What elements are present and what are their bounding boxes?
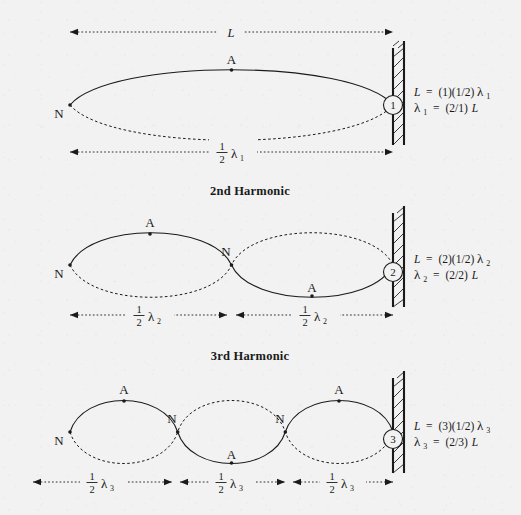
harmonic-1-formulas: L = (1)(1/2) λ 1 λ 1 = (2/1) L xyxy=(413,84,490,117)
lambda-subscript: 3 xyxy=(350,484,354,493)
harmonic-2-diagram: 2nd Harmonic N N A A xyxy=(0,175,521,340)
dimension-half-lambda: 1 2 λ 3 xyxy=(180,469,285,495)
fraction-numerator: 1 xyxy=(329,471,334,482)
fraction-numerator: 1 xyxy=(302,304,307,315)
standing-wave-harmonics-figure: L N A 1 xyxy=(0,0,521,515)
antinode-label-A: A xyxy=(119,382,129,397)
node-label-N: N xyxy=(54,106,64,121)
fraction-denominator: 2 xyxy=(218,484,223,495)
harmonic-1-diagram: L N A 1 xyxy=(0,0,521,175)
fraction-denominator: 2 xyxy=(302,317,307,328)
dimension-L-label: L xyxy=(227,26,235,40)
antinode-label-A: A xyxy=(307,280,317,295)
fraction-numerator: 1 xyxy=(89,471,94,482)
node-point xyxy=(68,263,72,267)
node-point xyxy=(230,263,234,267)
dimension-half-lambda: 1 2 λ 2 xyxy=(70,302,227,328)
wall xyxy=(393,41,404,145)
harmonic-3-heading: 3rd Harmonic xyxy=(211,349,290,363)
antinode-label-A: A xyxy=(334,382,344,397)
fraction-numerator: 1 xyxy=(219,141,224,152)
dimension-half-lambda: 1 2 λ 3 xyxy=(33,469,172,495)
fraction-denominator: 2 xyxy=(219,154,224,165)
lambda-subscript: 1 xyxy=(240,154,244,163)
harmonic-number: 2 xyxy=(390,266,396,278)
fraction-denominator: 2 xyxy=(136,317,141,328)
node-point xyxy=(68,430,72,434)
fraction-numerator: 1 xyxy=(218,471,223,482)
fraction-denominator: 2 xyxy=(89,484,94,495)
lambda-subscript: 3 xyxy=(110,484,114,493)
harmonic-number-badge: 2 xyxy=(384,263,403,282)
wave-solid xyxy=(70,70,393,105)
lambda-subscript: 3 xyxy=(239,484,243,493)
harmonic-2-formulas: L = (2)(1/2) λ 2 λ 2 = (2/2) L xyxy=(413,251,490,284)
harmonic-number: 1 xyxy=(390,99,396,111)
node-label-N: N xyxy=(275,411,285,426)
wave-dashed xyxy=(70,105,393,140)
node-label-N: N xyxy=(221,244,231,259)
harmonic-3-formulas: L = (3)(1/2) λ 3 λ 3 = (2/3) L xyxy=(413,418,490,451)
wall xyxy=(393,371,404,473)
harmonic-2-heading: 2nd Harmonic xyxy=(210,184,290,198)
antinode-point xyxy=(230,68,234,72)
harmonic-number-badge: 3 xyxy=(384,430,403,449)
formula-length: L = (3)(1/2) λ 3 xyxy=(413,418,490,435)
antinode-point xyxy=(337,399,341,403)
formula-wavelength: λ 1 = (2/1) L xyxy=(414,100,478,117)
antinode-point xyxy=(148,232,152,236)
fraction-denominator: 2 xyxy=(329,484,334,495)
dimension-half-lambda: 1 2 λ 3 xyxy=(293,469,393,495)
lambda-glyph: λ xyxy=(231,146,238,161)
dimension-L-arrow: L xyxy=(70,22,393,42)
antinode-label-A: A xyxy=(227,447,237,462)
dimension-half-lambda: 1 2 λ 1 xyxy=(70,139,393,165)
wall xyxy=(393,206,404,307)
lambda-subscript: 2 xyxy=(157,317,161,326)
formula-wavelength: λ 3 = (2/3) L xyxy=(414,434,478,451)
lambda-glyph: λ xyxy=(341,476,348,491)
antinode-label-A: A xyxy=(227,52,237,67)
lambda-glyph: λ xyxy=(230,476,237,491)
node-point xyxy=(176,430,180,434)
formula-length: L = (1)(1/2) λ 1 xyxy=(413,84,490,101)
dimension-half-lambda: 1 2 λ 2 xyxy=(236,302,393,328)
node-label-N: N xyxy=(54,266,64,281)
node-point xyxy=(68,103,72,107)
lambda-glyph: λ xyxy=(314,309,321,324)
lambda-subscript: 2 xyxy=(323,317,327,326)
antinode-label-A: A xyxy=(145,215,155,230)
harmonic-3-diagram: 3rd Harmonic N N N A A xyxy=(0,340,521,515)
node-label-N: N xyxy=(54,433,64,448)
node-label-N: N xyxy=(167,411,177,426)
harmonic-number-badge: 1 xyxy=(384,96,403,115)
lambda-glyph: λ xyxy=(101,476,108,491)
lambda-glyph: λ xyxy=(148,309,155,324)
node-point xyxy=(284,430,288,434)
formula-wavelength: λ 2 = (2/2) L xyxy=(414,267,478,284)
harmonic-number: 3 xyxy=(390,433,396,445)
fraction-numerator: 1 xyxy=(136,304,141,315)
formula-length: L = (2)(1/2) λ 2 xyxy=(413,251,490,268)
antinode-point xyxy=(122,399,126,403)
